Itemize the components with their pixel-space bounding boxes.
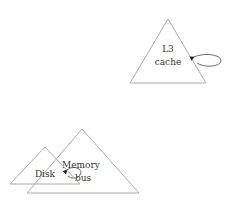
node-label-line1: Memory (62, 160, 101, 170)
node-label-line1: L3 (162, 44, 174, 54)
node-l3-cache: L3 cache (130, 19, 221, 83)
node-label: Disk (35, 169, 56, 179)
node-memory-bus: Memory bus (27, 129, 139, 193)
self-loop-arrow-icon (194, 54, 221, 66)
node-label-line2: cache (155, 57, 182, 67)
diagram-canvas: L3 cache Memory bus Disk (0, 0, 230, 210)
